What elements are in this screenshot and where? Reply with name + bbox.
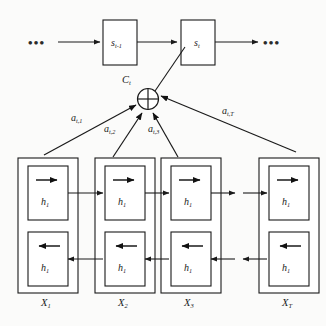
- backward-cell-T: [269, 232, 309, 286]
- attention-weight-label-T: at,T: [222, 106, 234, 116]
- backward-hidden-label-3: h1: [184, 263, 192, 273]
- input-sub-2: 2: [124, 302, 127, 309]
- backward-hidden-label-2: h1: [118, 263, 126, 273]
- left-ellipsis: •••: [28, 35, 45, 51]
- forward-hidden-label-3: h1: [184, 197, 192, 207]
- attention-weight-label-3: at,3: [148, 124, 159, 134]
- forward-cell-T: [269, 166, 309, 220]
- attention-arrow-1: [44, 105, 136, 155]
- forward-cell-3: [171, 166, 211, 220]
- attn-sub-1: t,1: [76, 117, 82, 124]
- bwd-h-sub-2: 1: [123, 267, 126, 274]
- attention-arrow-3: [153, 113, 178, 157]
- fwd-h-sub-T: 1: [287, 201, 290, 208]
- bwd-h-sub-1: 1: [46, 267, 49, 274]
- fwd-h-sub-3: 1: [189, 201, 192, 208]
- forward-cell-1: [28, 166, 68, 220]
- attention-weight-label-2: at,2: [104, 124, 115, 134]
- attn-sub-2: t,2: [109, 128, 115, 135]
- attention-arrow-2: [113, 113, 142, 157]
- bwd-h-sub-T: 1: [287, 267, 290, 274]
- input-label-1: X1: [41, 298, 51, 309]
- context-base: C: [122, 74, 129, 85]
- backward-cell-1: [28, 232, 68, 286]
- state-sub-curr: t: [198, 42, 200, 49]
- figure-canvas: ••• ••• st-1 st Ct at,1 at,2 at,3 at,T h…: [0, 0, 326, 326]
- decoder-state-label-curr: st: [194, 38, 200, 48]
- fwd-h-sub-1: 1: [46, 201, 49, 208]
- input-label-3: X3: [184, 298, 194, 309]
- backward-cell-2: [105, 232, 145, 286]
- decoder-state-label-prev: st-1: [111, 38, 122, 48]
- state-sub-prev: t-1: [115, 42, 122, 49]
- context-sub: t: [129, 79, 131, 86]
- backward-cell-3: [171, 232, 211, 286]
- input-label-T: XT: [282, 298, 292, 309]
- forward-cell-2: [105, 166, 145, 220]
- line-context-to-s-curr: [155, 47, 185, 91]
- input-sub-3: 3: [190, 302, 193, 309]
- input-sub-T: T: [288, 302, 292, 309]
- attn-sub-3: t,3: [153, 128, 159, 135]
- input-label-2: X2: [118, 298, 128, 309]
- attention-weight-label-1: at,1: [71, 113, 82, 123]
- backward-hidden-label-T: h1: [282, 263, 290, 273]
- forward-hidden-label-2: h1: [118, 197, 126, 207]
- forward-hidden-label-T: h1: [282, 197, 290, 207]
- backward-hidden-label-1: h1: [41, 263, 49, 273]
- attention-arrow-T: [161, 96, 296, 152]
- context-vector-label: Ct: [122, 75, 131, 86]
- input-sub-1: 1: [47, 302, 50, 309]
- right-ellipsis: •••: [263, 35, 280, 51]
- fwd-h-sub-2: 1: [123, 201, 126, 208]
- attn-sub-T: t,T: [227, 110, 234, 117]
- bwd-h-sub-3: 1: [189, 267, 192, 274]
- forward-hidden-label-1: h1: [41, 197, 49, 207]
